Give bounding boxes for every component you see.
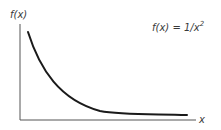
- formula-annotation: f(x) = 1/x2: [152, 20, 205, 33]
- x-axis-label: x: [198, 114, 205, 125]
- y-axis-label: f(x): [10, 9, 27, 20]
- formula-exponent: 2: [200, 20, 205, 28]
- curve-1-over-x-squared: [28, 32, 187, 115]
- chart-canvas: f(x) x f(x) = 1/x2: [0, 0, 221, 130]
- formula-text: f(x) = 1/x: [152, 22, 200, 33]
